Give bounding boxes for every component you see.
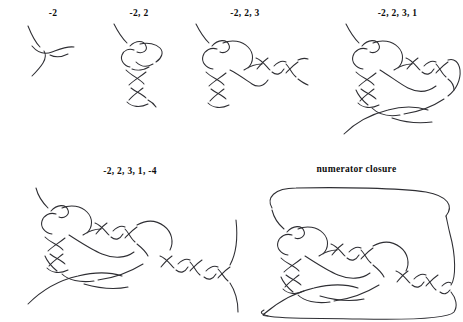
panel-2-diagram: [96, 22, 182, 110]
panel-6-label: numerator closure: [250, 164, 463, 175]
panel-2-label: -2, 2: [96, 8, 182, 19]
panel-tangle-3: -2, 2, 3: [182, 8, 308, 116]
panel-4-label: -2, 2, 3, 1: [332, 8, 463, 19]
panel-6-diagram: [250, 186, 463, 320]
panel-3-label: -2, 2, 3: [182, 8, 308, 19]
panel-numerator-closure: numerator closure: [250, 164, 463, 320]
panel-3-diagram: [182, 22, 308, 116]
panel-tangle-5: -2, 2, 3, 1, -4: [10, 166, 250, 316]
panel-1-diagram: [10, 22, 96, 80]
knot-diagram-2: [96, 22, 182, 110]
panel-1-label: -2: [10, 8, 96, 19]
knot-diagram-3: [182, 22, 308, 116]
panel-tangle-4: -2, 2, 3, 1: [332, 8, 463, 148]
knot-diagram-1: [10, 22, 96, 80]
panel-5-diagram: [10, 186, 250, 316]
panel-5-label: -2, 2, 3, 1, -4: [10, 166, 250, 177]
tangle-construction-figure: -2 -2, 2: [0, 0, 463, 322]
panel-tangle-2: -2, 2: [96, 8, 182, 108]
panel-tangle-1: -2: [10, 8, 96, 80]
knot-diagram-4: [332, 22, 463, 148]
panel-4-diagram: [332, 22, 463, 148]
knot-diagram-5: [10, 186, 250, 316]
knot-diagram-6: [250, 186, 463, 320]
